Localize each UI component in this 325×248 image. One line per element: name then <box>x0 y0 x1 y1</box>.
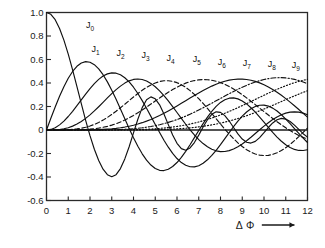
x-tick-label: 1 <box>56 206 80 216</box>
y-tick-label: 0.8 <box>30 31 43 41</box>
y-tick-label: -0.4 <box>27 172 43 182</box>
y-tick-label: 0.4 <box>30 78 43 88</box>
curve-label-J4: J4 <box>167 54 175 65</box>
curve-label-J8: J8 <box>268 60 276 71</box>
curve-label-order: 6 <box>222 61 226 68</box>
curve-label-order: 1 <box>96 48 100 55</box>
curve-label-J5: J5 <box>193 55 201 66</box>
x-axis-title: Δ Φ <box>236 220 255 231</box>
curve-label-J3: J3 <box>142 51 150 62</box>
x-tick-label: 9 <box>230 206 254 216</box>
x-tick-label: 11 <box>274 206 298 216</box>
curve-label-J9: J9 <box>292 61 300 72</box>
curve-label-order: 8 <box>272 64 276 71</box>
x-tick-label: 10 <box>252 206 276 216</box>
y-tick-label: -0.2 <box>27 149 43 159</box>
y-tick-label: 0.2 <box>30 102 43 112</box>
x-tick-label: 8 <box>209 206 233 216</box>
curve-label-order: 2 <box>121 53 125 60</box>
curve-label-J1: J1 <box>92 45 100 56</box>
curve-label-order: 7 <box>247 63 251 70</box>
x-tick-label: 4 <box>122 206 146 216</box>
curve-label-order: 4 <box>171 57 175 64</box>
x-tick-label: 5 <box>143 206 167 216</box>
y-tick-label: -0.6 <box>27 196 43 206</box>
curve-label-order: 9 <box>296 65 300 72</box>
curve-label-J0: J0 <box>86 21 94 32</box>
curve-label-order: 3 <box>146 55 150 62</box>
x-tick-label: 7 <box>187 206 211 216</box>
x-tick-label: 6 <box>165 206 189 216</box>
y-tick-label: 1.0 <box>30 8 43 18</box>
x-tick-label: 2 <box>78 206 102 216</box>
curve-label-J6: J6 <box>218 58 226 69</box>
curve-label-order: 0 <box>91 25 95 32</box>
curve-label-J7: J7 <box>243 59 251 70</box>
curve-label-J2: J2 <box>117 49 125 60</box>
x-tick-label: 12 <box>296 206 320 216</box>
y-tick-label: 0 <box>38 125 43 135</box>
curve-label-order: 5 <box>197 59 201 66</box>
x-axis-title-text: Δ Φ <box>236 219 255 231</box>
x-tick-label: 0 <box>35 206 59 216</box>
y-tick-label: 0.6 <box>30 55 43 65</box>
x-tick-label: 3 <box>100 206 124 216</box>
